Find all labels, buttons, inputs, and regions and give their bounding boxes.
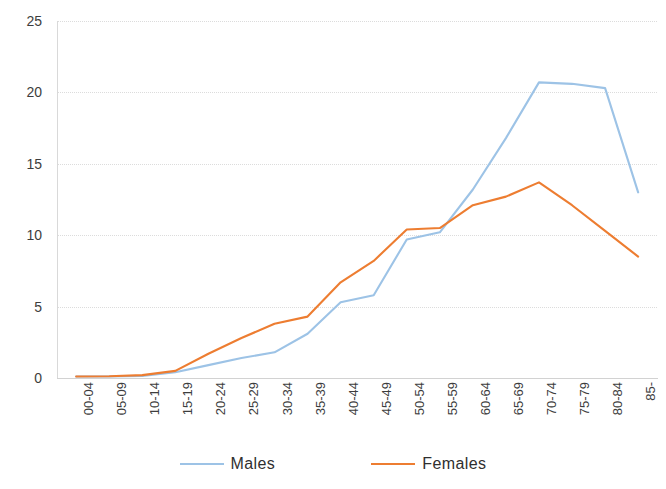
x-tick-label-wrap: 50-54 (412, 382, 427, 415)
x-tick-label: 70-74 (544, 382, 559, 415)
series-line-females (76, 182, 638, 376)
x-tick-label: 10-14 (147, 382, 162, 415)
x-tick-label-wrap: 65-69 (511, 382, 526, 415)
x-tick-label: 80-84 (610, 382, 625, 415)
legend-swatch-icon (371, 463, 415, 465)
x-tick-label: 50-54 (412, 382, 427, 415)
series-lines (57, 21, 657, 378)
x-axis-labels: 00-0405-0910-1415-1920-2425-2930-3435-39… (57, 382, 658, 442)
y-axis-line (57, 21, 58, 379)
x-tick-label-wrap: 80-84 (610, 382, 625, 415)
x-tick-label-wrap: 10-14 (147, 382, 162, 415)
legend-item-males[interactable]: Males (180, 455, 276, 473)
y-tick-label: 10 (26, 227, 42, 243)
x-tick-label-wrap: 85- (643, 382, 658, 401)
x-tick-label-wrap: 40-44 (346, 382, 361, 415)
x-tick-label: 35-39 (313, 382, 328, 415)
x-tick-label-wrap: 70-74 (544, 382, 559, 415)
x-tick-label: 65-69 (511, 382, 526, 415)
series-line-males (76, 82, 638, 376)
x-tick-label: 00-04 (81, 382, 96, 415)
x-tick-label: 40-44 (346, 382, 361, 415)
x-tick-label-wrap: 05-09 (114, 382, 129, 415)
x-tick-label-wrap: 20-24 (213, 382, 228, 415)
plot-area (57, 21, 657, 378)
x-tick-label: 25-29 (246, 382, 261, 415)
x-tick-label: 60-64 (478, 382, 493, 415)
x-tick-label: 75-79 (577, 382, 592, 415)
y-axis-labels: 0510152025 (0, 21, 50, 378)
legend-label: Females (422, 455, 486, 473)
x-tick-label: 15-19 (180, 382, 195, 415)
legend-swatch-icon (180, 463, 224, 465)
legend-label: Males (231, 455, 276, 473)
x-tick-label: 55-59 (445, 382, 460, 415)
y-tick-label: 5 (34, 299, 42, 315)
y-tick-label: 20 (26, 84, 42, 100)
chart-legend: MalesFemales (0, 455, 666, 473)
x-tick-label-wrap: 25-29 (246, 382, 261, 415)
x-tick-label: 45-49 (379, 382, 394, 415)
line-chart: 0510152025 00-0405-0910-1415-1920-2425-2… (0, 0, 666, 489)
x-tick-label-wrap: 00-04 (81, 382, 96, 415)
x-tick-label-wrap: 45-49 (379, 382, 394, 415)
x-tick-label: 30-34 (280, 382, 295, 415)
x-tick-label-wrap: 30-34 (280, 382, 295, 415)
legend-item-females[interactable]: Females (371, 455, 486, 473)
x-tick-label-wrap: 75-79 (577, 382, 592, 415)
x-tick-label-wrap: 55-59 (445, 382, 460, 415)
y-tick-label: 0 (34, 370, 42, 386)
y-tick-label: 15 (26, 156, 42, 172)
x-tick-label-wrap: 60-64 (478, 382, 493, 415)
x-tick-label-wrap: 15-19 (180, 382, 195, 415)
x-tick-label: 85- (643, 382, 658, 401)
x-axis-line (57, 378, 658, 379)
y-tick-label: 25 (26, 13, 42, 29)
x-tick-label: 05-09 (114, 382, 129, 415)
x-tick-label: 20-24 (213, 382, 228, 415)
x-tick-label-wrap: 35-39 (313, 382, 328, 415)
